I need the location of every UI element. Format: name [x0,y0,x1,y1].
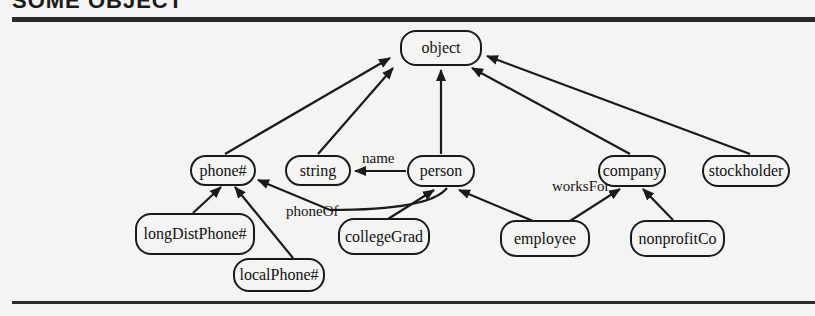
edge-collegegrad-person [388,190,434,219]
edge-label-name: name [362,150,394,167]
edge-longdist-phone [193,187,221,213]
node-nonprofitco: nonprofitCo [630,220,725,257]
edge-string-object [318,68,393,154]
node-person: person [407,155,475,187]
node-object: object [400,30,482,66]
node-longdistphone: longDistPhone# [135,213,255,255]
edge-phone-object [225,58,390,154]
edge-stockholder-object [487,56,750,154]
edge-label-phoneOf: phoneOf [286,203,339,220]
node-localphone: localPhone# [233,258,325,292]
node-string: string [285,155,351,186]
node-collegegrad: collegeGrad [338,218,430,255]
edge-employee-person [459,190,533,221]
node-employee: employee [500,220,590,257]
edge-nonprofit-company [643,189,673,220]
edge-label-worksFor: worksFor [552,178,610,195]
node-phone: phone# [190,155,256,186]
node-stockholder: stockholder [702,155,790,187]
